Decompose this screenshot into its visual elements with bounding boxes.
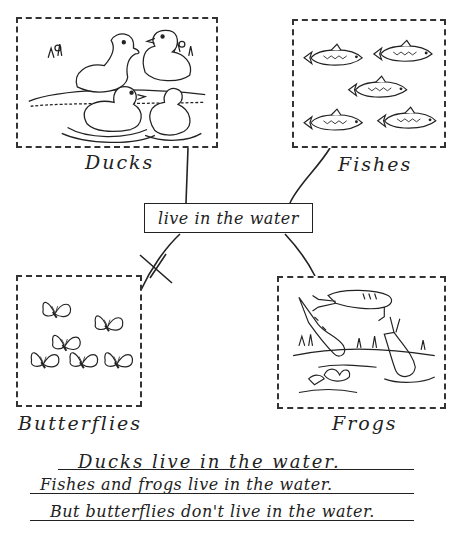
frogs-jumping-illustration [279,278,444,407]
connector-frogs [285,234,315,276]
fish-school-illustration [294,21,444,146]
sentence-2: Fishes and frogs live in the water. [40,475,333,494]
connector-ducks [186,148,188,203]
butterflies-picture-box [16,275,142,407]
fishes-picture-box [292,19,446,148]
node-label-fishes: Fishes [338,153,412,175]
connector-fishes [290,148,330,203]
ducks-swimming-illustration [18,19,216,146]
writing-line-3 [30,520,414,521]
node-label-frogs: Frogs [332,412,398,434]
connector-butterflies [141,234,180,290]
ducks-picture-box [16,17,218,148]
node-label-butterflies: Butterflies [18,412,142,434]
butterflies-illustration [18,277,140,405]
cross-mark-icon [140,254,172,283]
node-label-ducks: Ducks [85,151,154,173]
writing-line-2 [30,493,414,494]
frogs-picture-box [277,276,446,409]
writing-line-1 [58,469,414,470]
sentence-3: But butterflies don't live in the water. [50,502,375,521]
center-node-live-in-the-water: live in the water [144,203,313,233]
